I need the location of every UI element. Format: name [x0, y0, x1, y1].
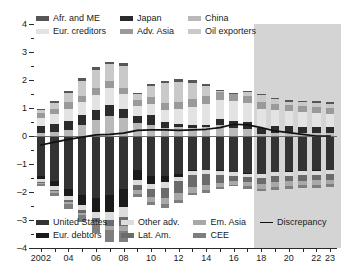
x-tick-label: 12	[174, 254, 184, 263]
legend-top-label: Adv. Asia	[137, 26, 174, 37]
legend-bottom-item[interactable]: Eur. debtors	[36, 230, 107, 241]
legend-bottom-item[interactable]: Other adv.	[121, 217, 179, 228]
x-tick-label: 20	[284, 254, 294, 263]
legend-bottom-item[interactable]: CEE	[193, 230, 246, 241]
x-tick	[330, 248, 331, 252]
x-axis-line	[34, 248, 337, 249]
legend-top-label: Eur. creditors	[53, 26, 106, 37]
legend-swatch-icon	[120, 29, 133, 34]
legend-swatch-icon	[36, 29, 49, 34]
x-tick-label: 04	[63, 254, 73, 263]
legend-swatch-icon	[36, 233, 49, 238]
legend-swatch-icon	[36, 16, 49, 21]
x-tick	[220, 248, 221, 252]
y-tick-label: 3	[22, 48, 27, 57]
x-tick	[179, 248, 180, 252]
legend-bottom-label: United States	[53, 217, 107, 228]
x-tick	[82, 248, 83, 252]
legend-top-label: Oil exporters	[205, 26, 256, 37]
legend-bottom-label: CEE	[210, 230, 229, 241]
legend-swatch-icon	[188, 29, 201, 34]
legend-bottom-label: Em. Asia	[210, 217, 246, 228]
legend-swatch-icon	[193, 220, 206, 225]
x-tick	[275, 248, 276, 252]
legend-top-item[interactable]: Japan	[120, 13, 174, 24]
x-tick	[206, 248, 207, 252]
discrepancy-line	[34, 24, 337, 248]
x-tick	[261, 248, 262, 252]
x-tick	[68, 248, 69, 252]
x-tick	[165, 248, 166, 252]
x-tick	[55, 248, 56, 252]
legend-top: Afr. and MEJapanChinaEur. creditorsAdv. …	[36, 13, 256, 37]
y-tick-label: 0	[22, 132, 27, 141]
legend-bottom-item[interactable]: Em. Asia	[193, 217, 246, 228]
x-tick-label: 10	[146, 254, 156, 263]
x-tick	[289, 248, 290, 252]
legend-bottom-item[interactable]: United States	[36, 217, 107, 228]
x-tick	[192, 248, 193, 252]
x-tick-label: 08	[119, 254, 129, 263]
y-tick-label: 2	[22, 76, 27, 85]
legend-top-item[interactable]: China	[188, 13, 256, 24]
legend-bottom-item[interactable]: Lat. Am.	[121, 230, 179, 241]
legend-top-label: Japan	[137, 13, 162, 24]
x-tick	[234, 248, 235, 252]
x-tick	[110, 248, 111, 252]
legend-swatch-icon	[188, 16, 201, 21]
legend-swatch-icon	[193, 233, 206, 238]
x-tick	[151, 248, 152, 252]
legend-top-label: Afr. and ME	[53, 13, 100, 24]
legend-top-item[interactable]: Oil exporters	[188, 26, 256, 37]
x-tick-label: 2002	[31, 254, 51, 263]
x-tick	[96, 248, 97, 252]
legend-top-item[interactable]: Adv. Asia	[120, 26, 174, 37]
x-tick-label: 23	[325, 254, 335, 263]
y-tick-label: –1	[17, 160, 27, 169]
legend-swatch-icon	[121, 220, 134, 225]
legend-bottom-label: Eur. debtors	[53, 230, 102, 241]
legend-top-item[interactable]: Afr. and ME	[36, 13, 106, 24]
legend-top-item[interactable]: Eur. creditors	[36, 26, 106, 37]
legend-bottom-item[interactable]: Discrepancy	[260, 217, 327, 228]
y-tick-label: –2	[17, 188, 27, 197]
legend-swatch-icon	[120, 16, 133, 21]
x-tick	[137, 248, 138, 252]
x-tick-label: 14	[201, 254, 211, 263]
x-tick	[316, 248, 317, 252]
legend-bottom-label: Discrepancy	[277, 217, 327, 228]
x-tick	[303, 248, 304, 252]
legend-line-icon	[260, 222, 273, 223]
legend-bottom: United StatesOther adv.Em. AsiaDiscrepan…	[36, 217, 326, 241]
plot-area: –4–3–2–101234 20020406081012141618202223	[34, 24, 337, 248]
y-tick-label: –3	[17, 216, 27, 225]
legend-top-label: China	[205, 13, 229, 24]
legend-swatch-icon	[36, 220, 49, 225]
legend-swatch-icon	[121, 233, 134, 238]
y-tick-label: 4	[22, 20, 27, 29]
chart-root: –4–3–2–101234 20020406081012141618202223…	[0, 0, 361, 279]
x-tick-label: 16	[229, 254, 239, 263]
y-tick-label: 1	[22, 104, 27, 113]
y-tick-label: –4	[17, 244, 27, 253]
x-tick	[247, 248, 248, 252]
x-tick	[41, 248, 42, 252]
legend-bottom-label: Other adv.	[138, 217, 179, 228]
x-tick-label: 18	[256, 254, 266, 263]
x-tick-label: 22	[311, 254, 321, 263]
x-tick	[124, 248, 125, 252]
legend-bottom-label: Lat. Am.	[138, 230, 171, 241]
x-tick-label: 06	[91, 254, 101, 263]
